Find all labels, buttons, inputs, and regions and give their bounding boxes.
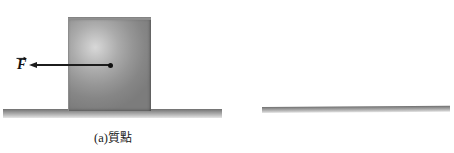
- force-label-a: F: [17, 58, 26, 72]
- force-arrow-head-a: [29, 62, 37, 68]
- force-symbol-a: F: [17, 57, 26, 72]
- force-arrow-shaft-a: [33, 64, 110, 66]
- caption-a-text: 質點: [108, 131, 133, 145]
- ground-surface-b: [262, 106, 450, 113]
- physics-figure: F (a)質點 F (b)剛體: [0, 0, 454, 153]
- caption-a-label: (a): [94, 131, 108, 145]
- caption-a: (a)質點: [0, 128, 227, 146]
- panel-particle: F (a)質點: [0, 0, 227, 153]
- panel-rigid-body: F (b)剛體: [227, 0, 454, 153]
- center-of-mass-dot-a: [108, 63, 113, 68]
